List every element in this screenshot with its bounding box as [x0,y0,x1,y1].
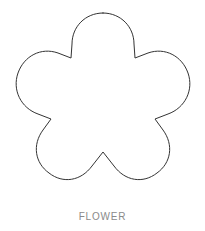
figure-caption: FLOWER [0,210,205,224]
flower-svg [0,0,205,200]
flower-shape-container [0,0,205,200]
flower-stencil-page: FLOWER [0,0,205,231]
flower-outline-icon [16,13,190,180]
